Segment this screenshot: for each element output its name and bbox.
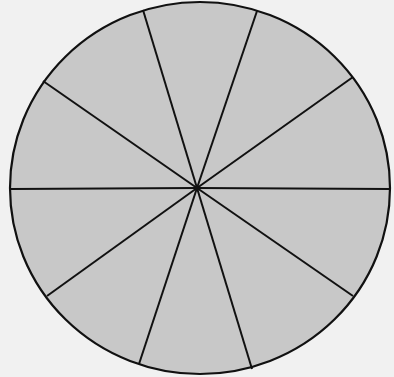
center-point: [195, 186, 200, 191]
sector-divider-9: [11, 188, 197, 189]
divided-circle-diagram: [0, 0, 394, 377]
sector-divider-4: [197, 188, 390, 189]
